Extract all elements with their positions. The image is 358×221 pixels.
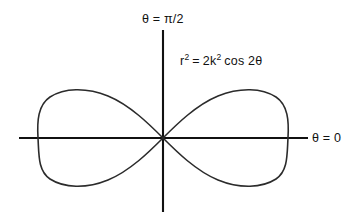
equation-trig-term: cos 2θ xyxy=(224,54,262,68)
lemniscate-plot xyxy=(0,0,358,221)
equation-r-exponent: 2 xyxy=(184,52,189,62)
equation-coefficient: 2k xyxy=(203,54,217,68)
axis-label-theta-pi-over-2: θ = π/2 xyxy=(142,13,184,26)
axis-label-theta-zero: θ = 0 xyxy=(312,132,341,145)
polar-curve-figure: θ = π/2 θ = 0 r2=2k2cos 2θ xyxy=(0,0,358,221)
equation-equals: = xyxy=(192,54,200,68)
equation-annotation: r2=2k2cos 2θ xyxy=(180,55,262,68)
equation-k-exponent: 2 xyxy=(216,52,221,62)
